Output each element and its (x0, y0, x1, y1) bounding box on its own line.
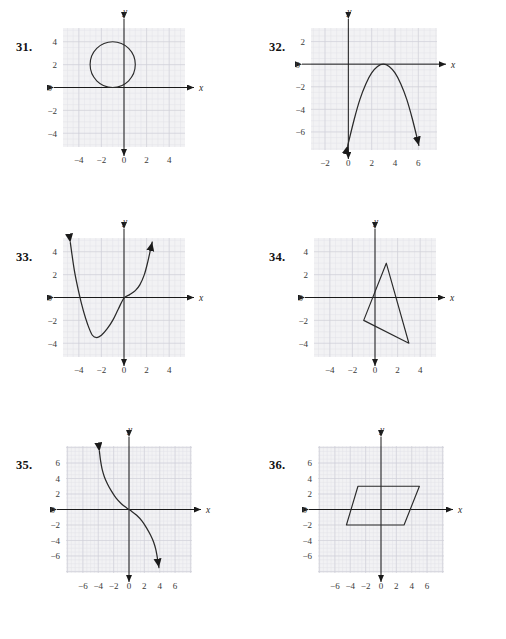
y-tick-label: −2 (47, 106, 57, 116)
y-tick-label: −6 (295, 127, 305, 137)
y-tick-label: 4 (304, 247, 309, 257)
y-tick-label: 0 (296, 60, 301, 70)
x-tick-label: −2 (320, 158, 330, 168)
problem-cell: 34.xy−4−2024420−2−4 (253, 212, 506, 424)
x-axis-label: x (205, 505, 211, 515)
x-tick-label: −2 (361, 581, 371, 591)
x-tick-label: 0 (122, 365, 127, 375)
x-tick-label: 2 (144, 155, 149, 165)
x-tick-label: 6 (425, 581, 430, 591)
y-tick-label: 4 (53, 247, 58, 257)
x-tick-label: 0 (127, 581, 132, 591)
plot-area: xy−4−2024420−2−4 (284, 224, 462, 383)
problem-cell: 33.xy−4−2024420−2−4 (0, 212, 253, 424)
x-tick-label: −4 (345, 581, 355, 591)
x-tick-label: −2 (109, 581, 119, 591)
y-tick-label: 6 (308, 458, 313, 468)
coordinate-plot: xy−4−2024420−2−4 (33, 14, 211, 173)
y-tick-label: −6 (302, 551, 312, 561)
y-axis-label: y (122, 217, 128, 227)
y-tick-label: −2 (302, 520, 312, 530)
y-tick-label: −6 (50, 551, 60, 561)
x-axis-label: x (449, 293, 455, 303)
problem-cell: 31.xy−4−2024420−2−4 (0, 0, 253, 212)
x-tick-label: 0 (122, 155, 127, 165)
problem-cell: 32.xy−2024620−2−4−6 (253, 0, 506, 212)
x-tick-label: −2 (97, 365, 107, 375)
x-tick-label: −2 (348, 365, 358, 375)
problem-number: 33. (16, 250, 32, 265)
x-tick-label: 2 (369, 158, 374, 168)
x-tick-label: 4 (409, 581, 414, 591)
x-tick-label: −4 (74, 155, 84, 165)
x-tick-label: 0 (379, 581, 384, 591)
y-tick-label: −4 (47, 339, 57, 349)
y-axis-label: y (373, 217, 379, 227)
coordinate-plot: xy−6−4−202466420−2−4−6 (36, 432, 218, 599)
y-tick-label: 0 (48, 293, 53, 303)
plot-area: xy−2024620−2−4−6 (281, 14, 463, 176)
problem-number: 31. (16, 40, 32, 55)
plot-area: xy−6−4−202466420−2−4−6 (288, 432, 470, 599)
y-axis-label: y (346, 7, 352, 17)
x-tick-label: −6 (330, 581, 340, 591)
y-tick-label: −2 (47, 316, 57, 326)
problem-cell: 36.xy−6−4−202466420−2−4−6 (253, 424, 506, 639)
y-tick-label: −4 (298, 339, 308, 349)
x-tick-label: 2 (395, 365, 400, 375)
y-tick-label: 4 (53, 37, 58, 47)
y-tick-label: −4 (302, 536, 312, 546)
coordinate-plot: xy−6−4−202466420−2−4−6 (288, 432, 470, 599)
y-tick-label: −4 (295, 105, 305, 115)
x-axis-label: x (198, 293, 204, 303)
y-tick-label: −4 (50, 536, 60, 546)
x-tick-label: 4 (167, 365, 172, 375)
y-tick-label: 0 (48, 83, 53, 93)
coordinate-plot: xy−2024620−2−4−6 (281, 14, 463, 176)
problem-number: 36. (269, 458, 285, 473)
x-axis-label: x (457, 505, 463, 515)
x-tick-label: −4 (93, 581, 103, 591)
x-tick-label: 6 (173, 581, 178, 591)
y-tick-label: −2 (298, 316, 308, 326)
y-tick-label: 0 (299, 293, 304, 303)
y-tick-label: 4 (56, 474, 61, 484)
y-tick-label: −4 (47, 129, 57, 139)
x-tick-label: 2 (144, 365, 149, 375)
x-tick-label: 2 (394, 581, 399, 591)
exercise-figure-grid: 31.xy−4−2024420−2−432.xy−2024620−2−4−633… (0, 0, 506, 639)
x-tick-label: 0 (373, 365, 378, 375)
x-axis-label: x (198, 83, 204, 93)
y-tick-label: 2 (53, 60, 58, 70)
y-tick-label: 2 (53, 270, 58, 280)
coordinate-plot: xy−4−2024420−2−4 (284, 224, 462, 383)
coordinate-plot: xy−4−2024420−2−4 (33, 224, 211, 383)
plot-area: xy−4−2024420−2−4 (33, 14, 211, 173)
y-tick-label: 0 (51, 505, 56, 515)
plot-area: xy−4−2024420−2−4 (33, 224, 211, 383)
y-axis-label: y (122, 7, 128, 17)
x-axis-label: x (450, 60, 456, 70)
x-tick-label: 0 (346, 158, 351, 168)
y-tick-label: 6 (56, 458, 61, 468)
x-tick-label: −2 (97, 155, 107, 165)
x-tick-label: 4 (418, 365, 423, 375)
y-axis-label: y (379, 425, 385, 435)
x-tick-label: −4 (325, 365, 335, 375)
x-tick-label: 4 (393, 158, 398, 168)
y-tick-label: −2 (295, 82, 305, 92)
problem-number: 35. (16, 458, 32, 473)
y-tick-label: 2 (301, 37, 306, 47)
problem-cell: 35.xy−6−4−202466420−2−4−6 (0, 424, 253, 639)
x-tick-label: 6 (416, 158, 421, 168)
problem-number: 34. (269, 250, 285, 265)
x-tick-label: −4 (74, 365, 84, 375)
y-tick-label: 2 (308, 489, 313, 499)
y-tick-label: 4 (308, 474, 313, 484)
x-tick-label: 4 (157, 581, 162, 591)
y-tick-label: 2 (304, 270, 309, 280)
plot-area: xy−6−4−202466420−2−4−6 (36, 432, 218, 599)
y-axis-label: y (127, 425, 133, 435)
x-tick-label: −6 (78, 581, 88, 591)
y-tick-label: 0 (303, 505, 308, 515)
